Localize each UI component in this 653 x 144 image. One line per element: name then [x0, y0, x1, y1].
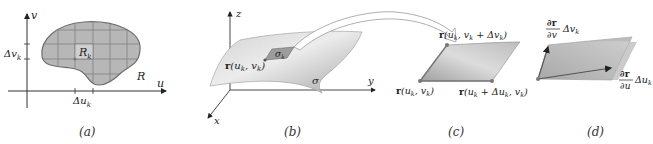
label-bottom-left: r(uk, vk): [396, 85, 434, 98]
u-axis-label: u: [157, 77, 164, 90]
sigma-label: σ: [312, 75, 320, 86]
label-partial-u: ∂r ∂u Δuk: [619, 69, 652, 91]
label-bottom-right: r(uk + Δuk, vk): [459, 86, 528, 99]
x-axis: [208, 90, 230, 118]
y-axis-label: y: [367, 75, 374, 86]
r-label: R: [136, 70, 145, 83]
svg-text:Δvk: Δvk: [562, 23, 579, 36]
panel-a: v u Rk R Δvk Δuk (a): [0, 0, 170, 139]
panel-c: r(uk, vk + Δvk) r(uk, vk) r(uk + Δuk, vk…: [396, 29, 528, 139]
svg-text:∂r: ∂r: [620, 69, 630, 79]
surface-area-diagram: v u Rk R Δvk Δuk (a): [0, 0, 653, 144]
svg-text:Δuk: Δuk: [634, 74, 652, 87]
panel-b: z y x σk σ r(uk, vk) (b): [208, 8, 456, 139]
z-axis-label: z: [235, 8, 242, 19]
caption-c: (c): [448, 125, 464, 139]
svg-text:∂u: ∂u: [620, 81, 631, 91]
svg-text:∂r: ∂r: [547, 18, 557, 28]
sample-point: [73, 57, 76, 60]
label-partial-v: ∂r ∂v Δvk: [546, 18, 579, 40]
v-axis-label: v: [31, 9, 38, 22]
caption-a: (a): [79, 125, 96, 139]
panel-d: ∂r ∂v Δvk ∂r ∂u Δuk (d): [536, 18, 652, 139]
delta-v-label: Δvk: [3, 48, 21, 62]
caption-b: (b): [284, 125, 301, 139]
caption-d: (d): [587, 125, 604, 139]
x-axis-label: x: [214, 115, 220, 126]
delta-u-label: Δuk: [72, 95, 91, 109]
svg-text:∂v: ∂v: [547, 30, 557, 40]
